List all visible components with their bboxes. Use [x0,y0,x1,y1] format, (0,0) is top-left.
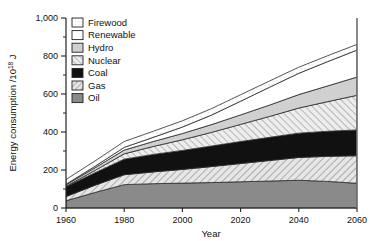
legend-label-nuclear: Nuclear [88,55,121,66]
chart-svg: 02004006008001,000 196019802000202020402… [0,0,389,241]
y-tick-label: 0 [53,203,58,213]
x-tick-label: 1960 [56,215,76,225]
x-tick-label: 2000 [172,215,192,225]
y-axis-title: Energy consumption /1018 J [7,54,18,171]
x-tick-label: 2060 [347,215,367,225]
y-axis-ticks: 02004006008001,000 [35,13,66,213]
stacked-area-bands [66,44,357,208]
legend-swatch-coal [72,68,83,77]
legend-label-coal: Coal [88,67,108,78]
energy-consumption-chart: 02004006008001,000 196019802000202020402… [0,0,389,241]
legend-swatch-renewable [72,31,83,40]
legend-label-firewood: Firewood [88,17,127,28]
x-tick-label: 2040 [289,215,309,225]
legend-swatch-oil [72,94,83,103]
y-tick-label: 400 [43,127,58,137]
x-tick-label: 1980 [114,215,134,225]
legend: FirewoodRenewableHydroNuclearCoalGasOil [72,17,136,104]
legend-label-renewable: Renewable [88,29,136,40]
legend-label-gas: Gas [88,80,106,91]
y-tick-label: 600 [43,89,58,99]
legend-swatch-hydro [72,43,83,52]
legend-swatch-firewood [72,18,83,27]
y-tick-label: 1,000 [35,13,58,23]
legend-swatch-nuclear [72,56,83,65]
x-tick-label: 2020 [231,215,251,225]
legend-label-hydro: Hydro [88,42,113,53]
y-tick-label: 800 [43,51,58,61]
x-axis-title: Year [201,228,220,239]
legend-label-oil: Oil [88,92,100,103]
x-axis-ticks: 196019802000202020402060 [56,208,367,225]
legend-swatch-gas [72,81,83,90]
y-tick-label: 200 [43,165,58,175]
